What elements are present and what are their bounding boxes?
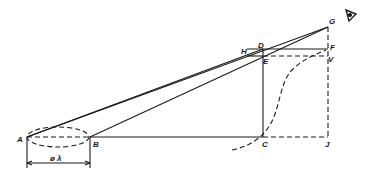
label-dimension: ø λ (50, 154, 62, 163)
label-V: V (328, 55, 334, 64)
label-H: H (241, 47, 247, 56)
line-B-G (90, 27, 328, 137)
label-B: B (93, 140, 99, 149)
label-C: C (262, 140, 268, 149)
eye-icon (346, 10, 356, 21)
label-D: D (258, 41, 264, 50)
label-J: J (325, 140, 330, 149)
label-E: E (263, 57, 269, 66)
perspective-diagram: A B C J D E H F V G ø λ (0, 0, 369, 173)
label-F: F (330, 43, 336, 52)
line-A-D (27, 49, 263, 137)
label-A: A (16, 135, 23, 144)
label-G: G (329, 17, 335, 26)
